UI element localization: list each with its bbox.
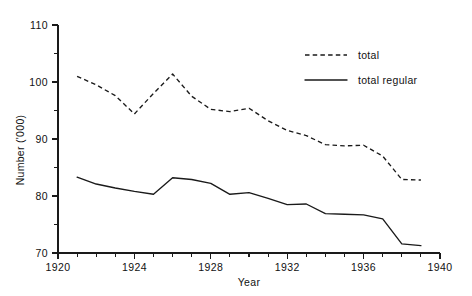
y-tick-label: 100 [29, 76, 48, 88]
x-axis-title: Year [238, 276, 261, 288]
series-line-total-regular [77, 177, 421, 245]
x-tick-label: 1936 [351, 261, 376, 273]
x-tick-label: 1940 [428, 261, 453, 273]
x-axis-tick-group [58, 253, 440, 259]
y-axis-title: Number ('000) [14, 115, 26, 186]
y-tick-label: 70 [36, 247, 48, 259]
y-tick-label: 80 [36, 190, 48, 202]
y-tick-label: 110 [30, 19, 48, 31]
chart-legend: total total regular [305, 49, 418, 86]
legend-label-total: total [358, 49, 379, 61]
y-axis-tick-group [52, 25, 58, 253]
x-tick-label: 1920 [46, 261, 71, 273]
line-chart-svg: 708090100110 192019241928193219361940 Nu… [0, 0, 472, 296]
x-tick-label: 1932 [275, 261, 300, 273]
x-tick-label: 1924 [122, 261, 147, 273]
y-axis-tick-labels: 708090100110 [29, 19, 48, 259]
chart-container: 708090100110 192019241928193219361940 Nu… [0, 0, 472, 296]
y-tick-label: 90 [36, 133, 48, 145]
series-line-total [77, 74, 421, 180]
legend-label-total-regular: total regular [358, 74, 418, 86]
x-axis-tick-labels: 192019241928193219361940 [46, 261, 453, 273]
x-tick-label: 1928 [198, 261, 223, 273]
